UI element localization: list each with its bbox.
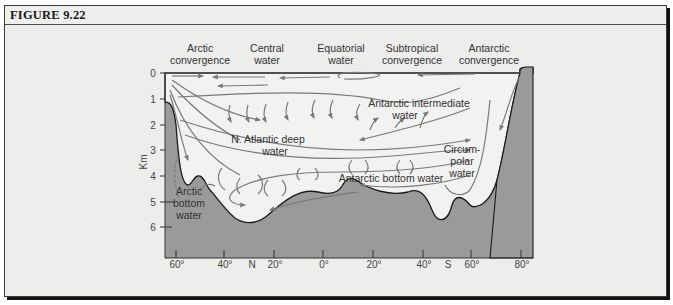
y-tick-4: 4 bbox=[150, 171, 156, 182]
label-circumpolar-1: Circum- bbox=[444, 143, 481, 155]
x-tick-40s: 40° bbox=[416, 259, 431, 270]
label-arctic-convergence-1: Arctic bbox=[187, 42, 213, 54]
x-tick-20n: 20° bbox=[267, 259, 282, 270]
x-tick-80s: 80° bbox=[514, 259, 529, 270]
x-tick-60n: 60° bbox=[169, 259, 184, 270]
label-equatorial-water-1: Equatorial bbox=[317, 42, 364, 54]
label-antarctic-intermediate-1: Antarctic intermediate bbox=[368, 97, 470, 109]
label-circumpolar-2: polar bbox=[450, 155, 474, 167]
y-tick-3: 3 bbox=[150, 145, 156, 156]
x-tick-s: S bbox=[445, 259, 452, 270]
label-antarctic-convergence-2: convergence bbox=[459, 54, 519, 66]
y-tick-6: 6 bbox=[150, 222, 156, 233]
label-circumpolar-3: water bbox=[448, 167, 475, 179]
x-tick-60s: 60° bbox=[464, 259, 479, 270]
label-equatorial-water-2: water bbox=[327, 54, 354, 66]
label-central-water-2: water bbox=[253, 54, 280, 66]
x-tick-40n: 40° bbox=[217, 259, 232, 270]
surface-labels: Arctic convergence Central water Equator… bbox=[170, 42, 519, 66]
y-axis-label: Km bbox=[138, 155, 149, 170]
ocean-circulation-diagram: 0 1 2 3 4 5 6 Km 60° 40° N 20° 0° 20° 40… bbox=[0, 0, 673, 305]
label-antarctic-convergence-1: Antarctic bbox=[469, 42, 510, 54]
y-tick-0: 0 bbox=[150, 68, 156, 79]
label-arctic-bottom-3: water bbox=[175, 209, 202, 221]
label-antarctic-intermediate-2: water bbox=[391, 109, 418, 121]
x-tick-20s: 20° bbox=[366, 259, 381, 270]
y-tick-1: 1 bbox=[150, 94, 156, 105]
label-central-water-1: Central bbox=[250, 42, 284, 54]
label-n-atlantic-deep-1: N. Atlantic deep bbox=[231, 133, 305, 145]
x-tick-n: N bbox=[248, 259, 255, 270]
label-n-atlantic-deep-2: water bbox=[261, 145, 288, 157]
label-subtropical-convergence-1: Subtropical bbox=[386, 42, 439, 54]
label-antarctic-bottom: Antarctic bottom water bbox=[339, 172, 444, 184]
y-tick-5: 5 bbox=[150, 197, 156, 208]
label-subtropical-convergence-2: convergence bbox=[382, 54, 442, 66]
label-arctic-bottom-1: Arctic bbox=[176, 185, 202, 197]
label-arctic-bottom-2: bottom bbox=[173, 197, 205, 209]
y-tick-2: 2 bbox=[150, 120, 156, 131]
label-arctic-convergence-2: convergence bbox=[170, 54, 230, 66]
x-tick-0: 0° bbox=[319, 259, 329, 270]
